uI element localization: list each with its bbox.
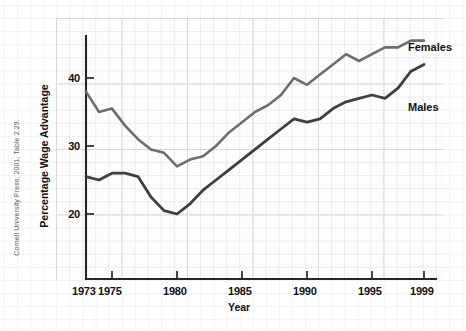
y-tick-label-40: 40 [58, 72, 80, 84]
chart-plot-area [0, 0, 466, 331]
x-tick-label-1999: 1999 [410, 285, 434, 297]
series-line-females [86, 41, 424, 167]
series-label-females: Females [408, 41, 452, 53]
x-tick-label-1985: 1985 [228, 285, 252, 297]
y-axis-title: Percentage Wage Advantage [38, 76, 50, 236]
y-tick-label-30: 30 [58, 140, 80, 152]
x-tick-label-1995: 1995 [358, 285, 382, 297]
y-tick-label-20: 20 [58, 208, 80, 220]
x-axis-title: Year [228, 301, 250, 313]
x-tick-label-1973: 1973 [72, 285, 96, 297]
source-credit: Cornell University Press, 2001, Table 2.… [13, 100, 20, 276]
x-tick-label-1990: 1990 [293, 285, 317, 297]
x-tick-label-1980: 1980 [163, 285, 187, 297]
x-tick-label-1975: 1975 [98, 285, 122, 297]
chart-figure: 40 30 20 1973 1975 1980 1985 1990 1995 1… [0, 0, 466, 331]
series-label-males: Males [408, 101, 439, 113]
